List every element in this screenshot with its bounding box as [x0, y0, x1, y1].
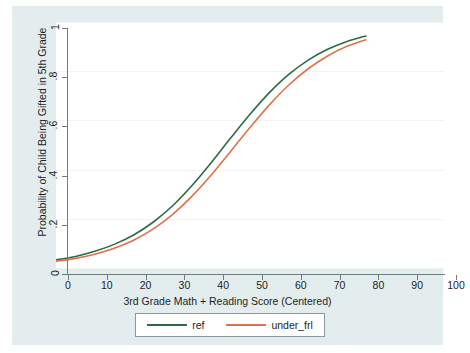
legend-label: under_frl	[271, 319, 312, 331]
legend-entry-under_frl[interactable]: under_frl	[226, 319, 312, 331]
y-tick-label-text: 0	[49, 270, 61, 276]
y-tick-label: .6	[12, 119, 58, 131]
gridline	[56, 268, 444, 269]
y-tick-label: .8	[12, 70, 58, 82]
y-tick-label: .2	[12, 218, 58, 230]
series-line-under-frl	[56, 39, 366, 261]
legend-swatch-icon	[147, 324, 187, 326]
series-line-ref	[56, 36, 366, 260]
y-tick	[62, 274, 67, 275]
legend-entry-ref[interactable]: ref	[147, 319, 204, 331]
x-tick-label: 60	[281, 279, 321, 291]
y-tick-label-text: .4	[48, 170, 60, 179]
y-axis-title: Probability of Child Being Gifted in 5th…	[36, 7, 48, 257]
x-axis-line	[68, 274, 445, 275]
y-tick-label: 1	[12, 21, 58, 33]
curves-svg	[56, 22, 444, 268]
x-tick-label: 90	[397, 279, 437, 291]
y-tick-label-text: .6	[48, 121, 60, 130]
y-tick-label-text: .8	[48, 72, 60, 81]
y-tick	[62, 77, 67, 78]
legend-swatch-icon	[226, 324, 266, 326]
chart-figure: 0.2.4.6.81 0102030405060708090100 Probab…	[12, 6, 443, 345]
x-tick-label: 30	[164, 279, 204, 291]
y-tick-label: .4	[12, 169, 58, 181]
x-tick-label: 10	[87, 279, 127, 291]
x-tick-label: 20	[126, 279, 166, 291]
x-tick-label: 40	[203, 279, 243, 291]
x-tick-label: 100	[436, 279, 470, 291]
plot-area	[56, 22, 444, 268]
x-tick-label: 70	[320, 279, 360, 291]
y-axis-line	[67, 28, 68, 275]
y-tick-label: 0	[12, 267, 58, 279]
y-tick-label-text: .2	[48, 219, 60, 228]
x-tick-label: 50	[242, 279, 282, 291]
legend-label: ref	[192, 319, 204, 331]
y-tick	[62, 28, 67, 29]
y-tick-label-text: 1	[49, 24, 61, 30]
y-tick	[62, 225, 67, 226]
x-axis-title: 3rd Grade Math + Reading Score (Centered…	[12, 295, 443, 307]
x-tick-label: 80	[358, 279, 398, 291]
y-tick	[62, 126, 67, 127]
x-tick-label: 0	[48, 279, 88, 291]
chart-legend: refunder_frl	[135, 313, 325, 337]
y-tick	[62, 176, 67, 177]
